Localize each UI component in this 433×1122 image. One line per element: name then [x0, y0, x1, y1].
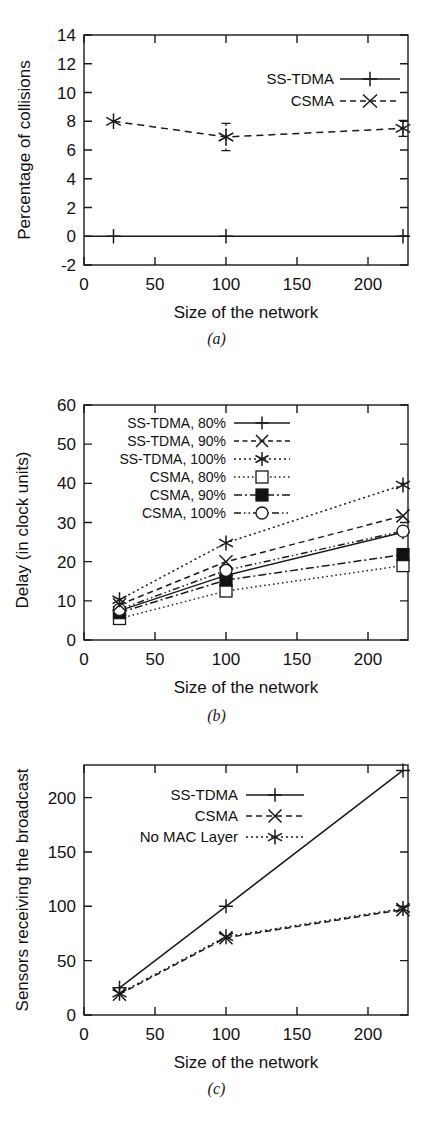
legend-marker-filled-square — [256, 489, 268, 501]
y-tick-label: 10 — [57, 84, 76, 103]
y-tick-label: 2 — [67, 199, 76, 218]
chart-panel-c: Sensors receiving the broadcast 0 50 100… — [0, 750, 433, 1122]
x-tick-label: 50 — [146, 650, 165, 669]
x-tick-label: 50 — [146, 275, 165, 294]
chart-b-series-csma-100 — [114, 525, 410, 615]
x-tick-label: 100 — [212, 650, 240, 669]
chart-b-x-ticklabels: 0 50 100 150 200 — [79, 650, 382, 669]
legend-marker-plus — [268, 788, 282, 802]
legend-label-ss-tdma-80: SS-TDMA, 80% — [127, 415, 226, 431]
chart-a-xlabel: Size of the network — [174, 303, 319, 322]
chart-b-series-ss-tdma-80 — [113, 525, 411, 617]
y-tick-label: 30 — [57, 514, 76, 533]
chart-c-series-ss-tdma — [113, 763, 411, 994]
chart-b-y-ticklabels: 0 10 20 30 40 50 60 — [57, 396, 76, 650]
chart-c-svg: Sensors receiving the broadcast 0 50 100… — [0, 750, 433, 1122]
y-tick-label: 150 — [48, 843, 76, 862]
chart-a-svg: Percentage of collisions -2 0 2 4 6 — [0, 0, 433, 370]
legend-label-csma-80: CSMA, 80% — [150, 469, 226, 485]
y-tick-label: 8 — [67, 112, 76, 131]
chart-c-series-csma — [113, 903, 410, 1001]
chart-c-xlabel: Size of the network — [174, 1053, 319, 1072]
chart-b-legend: SS-TDMA, 80% SS-TDMA, 90% SS-TDMA, 100% … — [119, 415, 290, 521]
chart-c-x-ticklabels: 0 50 100 150 200 — [79, 1025, 382, 1044]
legend-label-csma: CSMA — [195, 807, 238, 824]
x-tick-label: 200 — [354, 1025, 382, 1044]
chart-panel-a: Percentage of collisions -2 0 2 4 6 — [0, 0, 433, 370]
chart-a-series-ss-tdma — [84, 229, 410, 244]
subcaption-b: (b) — [0, 707, 433, 725]
y-tick-label: 4 — [67, 170, 76, 189]
legend-marker-plus — [363, 72, 378, 87]
figure-page: Percentage of collisions -2 0 2 4 6 — [0, 0, 433, 1122]
x-tick-label: 150 — [283, 275, 311, 294]
x-tick-label: 200 — [354, 650, 382, 669]
y-tick-label: 0 — [67, 1006, 76, 1025]
legend-label-csma-100: CSMA, 100% — [142, 505, 226, 521]
chart-a-series-csma — [106, 113, 410, 150]
legend-marker-cross — [256, 435, 268, 447]
chart-a-y-ticks — [84, 35, 408, 265]
x-tick-label: 100 — [212, 1025, 240, 1044]
chart-b-series-csma-90 — [114, 549, 410, 619]
x-tick-label: 0 — [79, 650, 88, 669]
subcaption-a: (a) — [0, 330, 433, 348]
x-tick-label: 0 — [79, 1025, 88, 1044]
chart-a-ylabel: Percentage of collisions — [15, 60, 34, 240]
legend-label-no-mac-layer: No MAC Layer — [140, 828, 238, 845]
legend-label-ss-tdma-100: SS-TDMA, 100% — [119, 451, 226, 467]
chart-c-y-ticks — [84, 798, 408, 1015]
chart-a-legend: SS-TDMA CSMA — [267, 70, 401, 109]
chart-c-legend: SS-TDMA CSMA No MAC Layer — [140, 786, 304, 845]
legend-label-csma-90: CSMA, 90% — [150, 487, 226, 503]
x-tick-label: 50 — [146, 1025, 165, 1044]
y-tick-label: 0 — [67, 227, 76, 246]
chart-b-series-csma-80 — [114, 560, 410, 625]
chart-a-y-ticklabels: -2 0 2 4 6 8 10 12 14 — [57, 26, 76, 275]
chart-c-ylabel: Sensors receiving the broadcast — [13, 768, 32, 1011]
y-tick-label: 20 — [57, 553, 76, 572]
legend-marker-star — [268, 830, 282, 845]
chart-panel-b: Delay (in clock units) 0 10 20 30 40 50 — [0, 370, 433, 750]
y-tick-label: 200 — [48, 789, 76, 808]
chart-b-svg: Delay (in clock units) 0 10 20 30 40 50 — [0, 370, 433, 750]
legend-label-csma: CSMA — [291, 92, 334, 109]
y-tick-label: 0 — [67, 631, 76, 650]
y-tick-label: 100 — [48, 897, 76, 916]
legend-marker-open-circle — [256, 507, 268, 519]
legend-label-ss-tdma: SS-TDMA — [171, 786, 239, 803]
chart-c-y-ticklabels: 0 50 100 150 200 — [48, 789, 76, 1025]
legend-marker-star — [256, 452, 269, 466]
y-tick-label: 10 — [57, 592, 76, 611]
chart-a-plot-frame — [84, 35, 408, 265]
y-tick-label: 14 — [57, 26, 76, 45]
legend-marker-open-square — [256, 471, 268, 483]
x-tick-label: 150 — [283, 650, 311, 669]
y-tick-label: 6 — [67, 141, 76, 160]
legend-label-ss-tdma-90: SS-TDMA, 90% — [127, 433, 226, 449]
y-tick-label: -2 — [61, 256, 76, 275]
chart-b-xlabel: Size of the network — [174, 678, 319, 697]
x-tick-label: 150 — [283, 1025, 311, 1044]
y-tick-label: 12 — [57, 55, 76, 74]
x-tick-label: 100 — [212, 275, 240, 294]
x-tick-label: 200 — [354, 275, 382, 294]
legend-marker-plus — [256, 417, 269, 430]
chart-a-x-ticklabels: 0 50 100 150 200 — [79, 275, 382, 294]
y-tick-label: 50 — [57, 435, 76, 454]
x-tick-label: 0 — [79, 275, 88, 294]
chart-b-ylabel: Delay (in clock units) — [13, 452, 32, 609]
legend-label-ss-tdma: SS-TDMA — [267, 70, 335, 87]
y-tick-label: 60 — [57, 396, 76, 415]
y-tick-label: 40 — [57, 474, 76, 493]
subcaption-c: (c) — [0, 1080, 433, 1098]
y-tick-label: 50 — [57, 952, 76, 971]
